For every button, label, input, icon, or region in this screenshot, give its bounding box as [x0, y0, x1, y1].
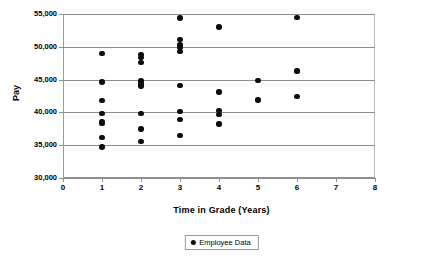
x-tick-label: 4	[211, 183, 227, 192]
data-point	[99, 135, 105, 141]
gridline	[63, 80, 375, 81]
x-tick-label: 0	[55, 183, 71, 192]
plot-area	[63, 14, 375, 178]
gridline	[63, 47, 375, 48]
data-point	[99, 144, 105, 150]
data-point	[138, 139, 144, 145]
data-point	[177, 83, 183, 89]
plot-frame	[63, 14, 375, 178]
data-point	[177, 15, 183, 21]
gridline	[63, 178, 375, 179]
data-point	[138, 60, 144, 66]
data-point	[294, 15, 300, 21]
data-point	[99, 79, 105, 85]
data-point	[99, 51, 105, 57]
legend-label: Employee Data	[199, 238, 250, 247]
x-tick-label: 8	[367, 183, 383, 192]
gridline	[63, 145, 375, 146]
x-axis-title: Time in Grade (Years)	[0, 205, 443, 215]
data-point	[216, 89, 222, 95]
x-tick-mark	[375, 178, 376, 182]
x-tick-label: 1	[94, 183, 110, 192]
x-tick-label: 7	[328, 183, 344, 192]
data-point	[255, 97, 261, 103]
data-point	[138, 83, 144, 89]
data-point	[177, 49, 183, 55]
gridline	[63, 14, 375, 15]
data-point	[255, 78, 261, 84]
scatter-chart: Pay 30,00035,00040,00045,00050,00055,000…	[0, 0, 443, 269]
data-point	[177, 133, 183, 139]
chart-legend: Employee Data	[184, 235, 258, 250]
x-tick-label: 5	[250, 183, 266, 192]
x-tick-label: 6	[289, 183, 305, 192]
x-tick-label: 3	[172, 183, 188, 192]
data-point	[216, 121, 222, 127]
data-point	[216, 112, 222, 118]
data-point	[99, 121, 105, 127]
data-point	[216, 24, 222, 30]
x-tick-label: 2	[133, 183, 149, 192]
legend-marker-icon	[190, 240, 195, 245]
data-point	[99, 98, 105, 104]
data-point	[177, 117, 183, 123]
data-point	[138, 126, 144, 132]
